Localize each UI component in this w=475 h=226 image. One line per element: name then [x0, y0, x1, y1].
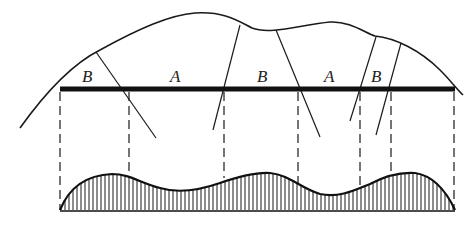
label-b-3: B: [371, 67, 382, 86]
label-a-1: A: [169, 67, 181, 86]
hatched-profile: [60, 173, 455, 210]
label-a-2: A: [323, 67, 335, 86]
geology-section-diagram: B A B A B: [0, 0, 475, 226]
label-b-1: B: [82, 67, 93, 86]
boundary-line-1: [96, 52, 156, 138]
label-b-2: B: [257, 67, 268, 86]
boundary-line-2: [213, 25, 240, 130]
